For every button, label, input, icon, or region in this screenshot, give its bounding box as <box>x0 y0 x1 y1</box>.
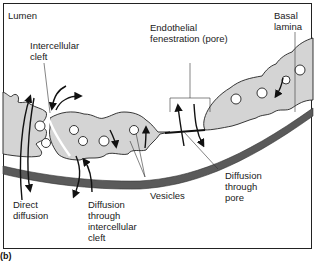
panel-label: (b) <box>0 251 12 261</box>
label-intercellular-cleft: Intercellular cleft <box>30 40 79 62</box>
cleft-arrow-down <box>74 156 80 196</box>
fenestration-diaphragm <box>165 130 205 133</box>
cleft-arrow-out <box>56 96 80 110</box>
label-basal-lamina: Basal lamina <box>274 10 302 32</box>
label-diffusion-through-pore: Diffusion through pore <box>225 170 262 203</box>
pore-arrow-down <box>194 104 203 145</box>
pore-arrow-up <box>178 106 184 146</box>
label-direct-diffusion: Direct diffusion <box>13 199 48 221</box>
label-endothelial-fenestration: Endothelial fenestration (pore) <box>150 22 228 44</box>
label-vesicles: Vesicles <box>150 190 185 201</box>
endothelial-cell-right <box>204 38 313 130</box>
label-lumen: Lumen <box>8 10 37 21</box>
label-diffusion-through-cleft: Diffusion through intercellular cleft <box>88 199 137 243</box>
